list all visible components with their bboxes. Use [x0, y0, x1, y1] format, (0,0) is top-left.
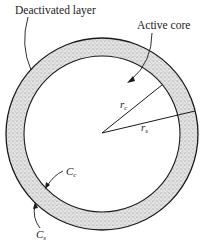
active-core-label: Active core — [137, 19, 190, 31]
rc-label: rc — [120, 98, 128, 112]
deactivated-layer-leader — [25, 17, 31, 70]
deactivated-layer-shell — [6, 38, 198, 230]
cc-leader — [47, 171, 63, 186]
catalyst-particle-diagram: Deactivated layer Active core rc rs Cc C… — [0, 0, 217, 251]
rs-label: rs — [141, 121, 148, 135]
deactivated-layer-label: Deactivated layer — [15, 4, 96, 17]
cs-label: Cs — [36, 228, 46, 242]
cc-label: Cc — [66, 165, 77, 179]
